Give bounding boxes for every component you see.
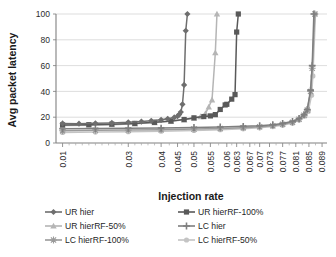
data-point-square [191,115,196,120]
data-point-square [201,114,206,119]
y-axis-title: Avg packet latency [6,32,18,127]
x-tick-label: 0.055 [206,151,216,173]
x-axis-title: Injection rate [158,190,224,202]
x-tick-label: 0.073 [265,151,275,173]
avg-packet-latency-line-chart: Avg packet latency 020406080100 0.010.03… [0,0,336,257]
x-tick-label: 0.04 [157,151,167,168]
data-point-square [213,112,218,117]
data-point-square [232,92,237,97]
data-point-square [224,102,229,107]
data-point-square [229,97,234,102]
y-tick-label: 60 [41,61,51,71]
x-tick-label: 0.063 [232,151,242,173]
data-point-square [234,29,239,34]
legend-label: LC hierRF-100% [65,235,129,245]
y-tick-label: 0 [45,138,50,148]
x-tick-label: 0.05 [189,151,199,168]
x-tick-label: 0.085 [304,151,314,173]
x-tick-label: 0.077 [278,151,288,173]
y-tick-label: 100 [36,9,50,19]
x-tick-label: 0.03 [124,151,134,168]
data-point-square [182,117,187,122]
x-tick-label: 0.07 [255,151,265,168]
data-point-square [236,11,241,16]
y-tick-label: 40 [41,87,51,97]
data-point-circle [184,237,189,242]
x-tick-label: 0.089 [317,151,327,173]
data-point-square [208,113,213,118]
data-point-square [218,107,223,112]
chart-figure: Avg packet latency 020406080100 0.010.03… [0,0,336,257]
data-point-square [184,209,189,214]
x-tick-label: 0.01 [58,151,68,168]
x-tick-label: 0.045 [173,151,183,173]
legend-label: LC hier [198,221,226,231]
legend-label: UR hierRF-50% [65,221,126,231]
x-tick-label: 0.081 [291,151,301,173]
y-tick-label: 80 [41,35,51,45]
legend-label: UR hier [65,207,94,217]
data-point-star [50,237,57,244]
x-tick-label: 0.06 [222,151,232,168]
legend-label: UR hierRF-100% [198,207,264,217]
legend-label: LC hierRF-50% [198,235,258,245]
x-tick-label: 0.067 [245,151,255,173]
y-tick-label: 20 [41,112,51,122]
